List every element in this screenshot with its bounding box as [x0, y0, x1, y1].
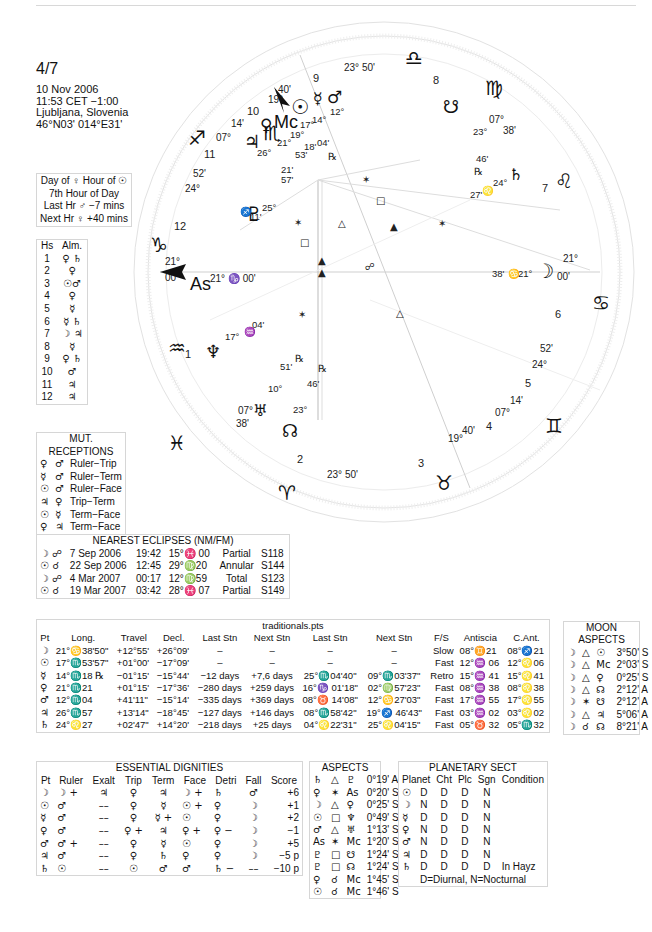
- house-num: 12: [37, 391, 57, 404]
- aspect-sextile-icon: ✶: [298, 309, 306, 320]
- reception-type: Trip−Term: [67, 496, 125, 509]
- top-divider: [36, 5, 636, 6]
- cell: 03°♌02: [504, 707, 549, 719]
- house-7: 7: [542, 182, 548, 194]
- cell: D: [417, 861, 433, 873]
- aspect-icon: ✶: [579, 696, 593, 708]
- cell: ♄ −: [211, 863, 241, 876]
- table-row: ♃26°♏57+13'14"−18°45'−127 days+146 days0…: [37, 707, 549, 719]
- col-travel: Travel: [114, 632, 154, 644]
- eclipse-pos: 28°♓ 07: [166, 585, 216, 598]
- moon-aspects-title: MOON ASPECTS: [564, 622, 639, 647]
- house-9: 9: [313, 72, 319, 84]
- table-row: ☽NDDN: [399, 799, 547, 811]
- cell: N: [475, 849, 499, 861]
- orb: 1°24' S: [364, 849, 402, 861]
- planet-icon: ☊: [593, 684, 613, 696]
- house-12: 12: [174, 220, 186, 232]
- planet-icon: ♀: [344, 799, 364, 811]
- aspect-trine-icon: △: [338, 218, 346, 229]
- neptune-deg: 17°: [225, 331, 240, 342]
- cell: −280 days: [194, 682, 246, 694]
- almuten: ☿ ♄: [57, 316, 87, 329]
- cell: ♀: [120, 800, 148, 813]
- planet-icon: Mc: [593, 659, 613, 671]
- almuten: ☉♂: [57, 278, 87, 291]
- table-row: ☿♂––♀☿ +☉♀☽+2: [37, 812, 302, 825]
- aspect-icon: □: [328, 861, 343, 873]
- cell: ♄: [147, 850, 179, 863]
- moon-icon: ☽: [536, 259, 554, 283]
- col-antiscia: Antiscia: [457, 632, 505, 644]
- cell: 05°♉ 32: [457, 719, 505, 731]
- cell: ☽: [241, 825, 266, 838]
- table-row: ♄△♇0°19' A: [310, 774, 402, 786]
- cusp-6-deg: 24°: [532, 359, 547, 370]
- eclipse-kind: Partial: [215, 548, 258, 561]
- mercury-min: 18': [304, 141, 317, 152]
- col-face: Face: [179, 775, 211, 788]
- house-6: 6: [555, 308, 561, 320]
- cell: D: [433, 787, 455, 799]
- cell: 09°♏03'37": [362, 670, 426, 682]
- table-row: ♇□☋1°24' S: [310, 849, 402, 861]
- table-row: ♀21°♏21+01°15'−17°36'−280 days+259 days1…: [37, 682, 549, 694]
- house-num: 8: [37, 341, 57, 354]
- aspect-square-icon: □: [300, 237, 309, 248]
- cell: 05°♏32: [504, 719, 549, 731]
- planet-icon: ♂: [37, 838, 54, 851]
- planet-icon: ♄: [37, 719, 53, 731]
- orb: 0°25' S: [614, 672, 652, 684]
- house-10: 10: [247, 105, 259, 117]
- table-row: ☿14°♏18 ℞−01°15'−15°44'−12 days+7,6 days…: [37, 670, 549, 682]
- aspect-icon: △: [579, 647, 593, 659]
- cell: 08°♌38: [504, 682, 549, 694]
- cusp-2-deg: 07°: [238, 405, 253, 416]
- cell: +14°20': [154, 719, 194, 731]
- eclipse-time: 03:42: [133, 585, 166, 598]
- cell: ☽ +: [54, 787, 88, 800]
- planet-icon: As: [310, 836, 328, 848]
- planet-icon: ☽: [564, 709, 579, 721]
- planet-icon: ♀: [37, 682, 53, 694]
- table-row: ☉♂––♀☿☉ +♀☽+1: [37, 800, 302, 813]
- south-node-icon: ☋: [443, 96, 459, 117]
- day-hour-line: Day of ♀ Hour of ☉: [37, 175, 131, 188]
- eclipse-pos: 12°♍59: [166, 573, 216, 586]
- cell: Fast: [426, 694, 456, 706]
- cell: 15°♒ 41: [457, 670, 505, 682]
- cusp-4-min: 40': [462, 425, 475, 436]
- eclipse-kind: Annular: [215, 560, 258, 573]
- jupiter-deg: 26°: [257, 147, 272, 158]
- planet-a: ♀: [37, 458, 52, 471]
- gemini-icon: ♊: [545, 414, 563, 438]
- cell: ☿ +: [147, 812, 179, 825]
- cusp-5-deg: 07°: [495, 407, 510, 418]
- house-1: 1: [185, 348, 191, 360]
- eclipse-time: 19:42: [133, 548, 166, 561]
- planet-icon: ♂: [399, 836, 417, 848]
- cusp-11-deg: 07°: [216, 132, 231, 143]
- eclipses-box: NEAREST ECLIPSES (NM/FM) ☽ ☍7 Sep 200619…: [36, 534, 290, 599]
- planet-icon: ♃: [593, 709, 613, 721]
- aspect-icon: ☌: [328, 886, 343, 898]
- table-row: ☽ ☍4 Mar 200700:1712°♍59TotalS123: [37, 573, 289, 586]
- almuten: ♀ ♄: [57, 253, 87, 266]
- table-row: ☉DDDN: [399, 787, 547, 799]
- aspect-icon: ☌: [579, 721, 593, 733]
- virgo-icon: ♍: [485, 76, 503, 100]
- venus-deg: 21°: [277, 137, 292, 148]
- house-num: 10: [37, 366, 57, 379]
- house-4: 4: [486, 420, 492, 432]
- saturn-sign: ♌: [482, 185, 494, 197]
- cell: ♂ +: [54, 838, 88, 851]
- cell: −01°15': [114, 670, 154, 682]
- eclipse-type-icon: ☽ ☍: [37, 548, 67, 561]
- table-row: ♀♂––♀ +♃♀ +♀ −☽−1: [37, 825, 302, 838]
- cell: +01°15': [114, 682, 154, 694]
- planet-icon: ☋: [344, 849, 364, 861]
- mars-deg: 12°: [330, 106, 345, 117]
- col-next-stn: Next Stn: [246, 632, 298, 644]
- cell: D: [455, 799, 475, 811]
- eclipses-title: NEAREST ECLIPSES (NM/FM): [37, 535, 289, 548]
